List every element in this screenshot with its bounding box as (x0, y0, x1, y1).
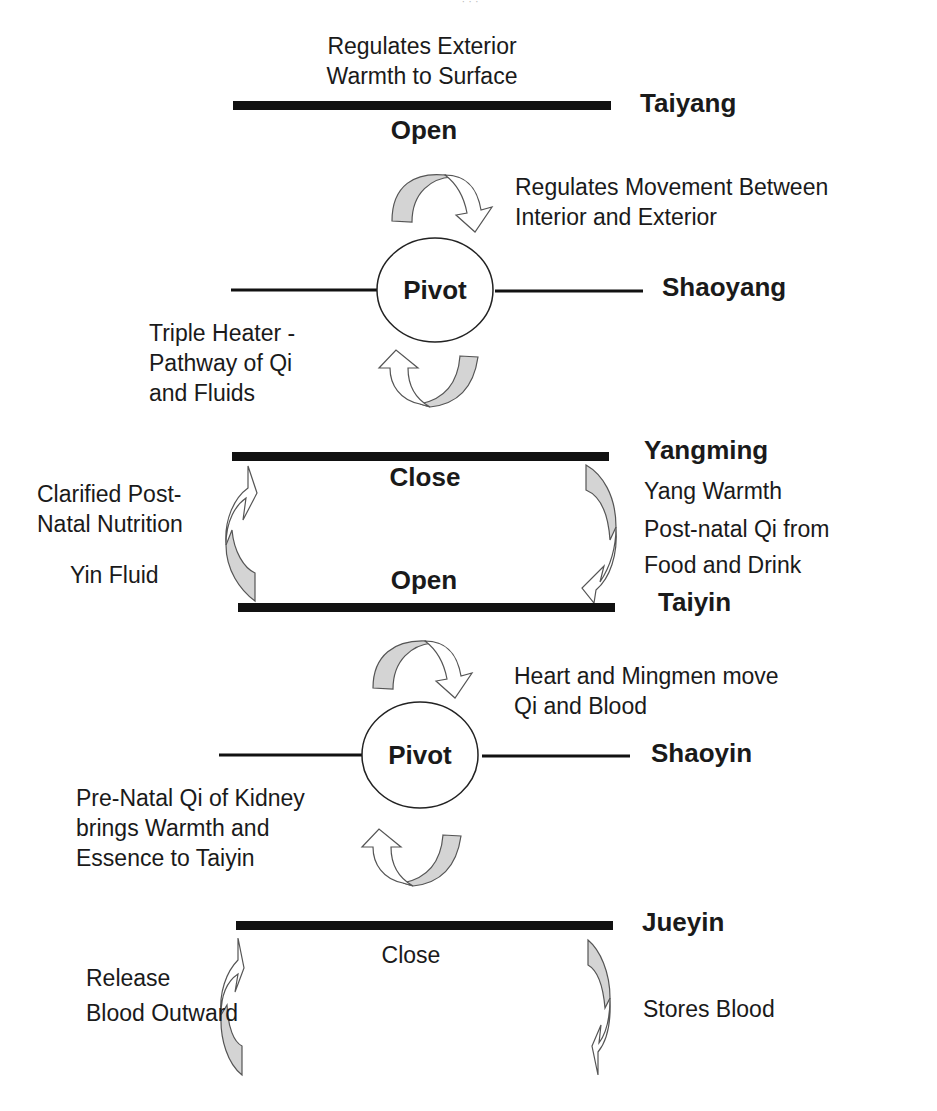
taiyin-note-left-extra: Yin Fluid (70, 562, 159, 588)
yangming-state: Close (390, 462, 461, 492)
shaoyin-note-right-line-1: Heart and Mingmen move (514, 663, 779, 689)
clipped-header: · · · (461, 0, 478, 7)
yangming-note-line-2: Post-natal Qi from (644, 516, 829, 542)
six-levels-diagram: · · · Regulates Exterior Warmth to Surfa… (0, 0, 937, 1111)
curved-arrow-icon (392, 175, 492, 232)
taiyin-label: Taiyin (658, 587, 731, 617)
shaoyin-note-left-line-3: Essence to Taiyin (76, 845, 255, 871)
jueyin-note-right: Stores Blood (643, 996, 775, 1022)
shaoyang-label: Shaoyang (662, 272, 786, 302)
taiyang-state: Open (391, 115, 457, 145)
shaoyang-note-right-line-2: Interior and Exterior (515, 204, 717, 230)
curved-arrow-icon (379, 350, 478, 407)
shaoyang-group: Pivot Shaoyang (231, 238, 786, 342)
taiyin-note-left-line-2: Natal Nutrition (37, 511, 183, 537)
jueyin-state: Close (382, 942, 441, 968)
shaoyang-note-left-line-3: and Fluids (149, 380, 255, 406)
yangming-note-line-1: Yang Warmth (644, 478, 782, 504)
curved-arrow-icon (226, 466, 257, 601)
curved-arrow-icon (362, 829, 461, 886)
curved-arrow-icon (373, 641, 472, 698)
yangming-label: Yangming (644, 435, 768, 465)
shaoyin-note-right-line-2: Qi and Blood (514, 693, 647, 719)
taiyang-group: Regulates Exterior Warmth to Surface Tai… (233, 33, 736, 145)
yangming-note-line-3: Food and Drink (644, 552, 802, 578)
taiyin-bar (238, 603, 615, 612)
yangming-bar (232, 452, 609, 461)
shaoyang-note-right-line-1: Regulates Movement Between (515, 174, 828, 200)
jueyin-label: Jueyin (642, 907, 724, 937)
shaoyang-state: Pivot (403, 275, 467, 305)
shaoyin-note-left-line-2: brings Warmth and (76, 815, 269, 841)
taiyang-bar (233, 101, 611, 110)
curved-arrow-icon (582, 465, 616, 603)
jueyin-note-left-line-2: Blood Outward (86, 1000, 238, 1026)
shaoyin-note-left-line-1: Pre-Natal Qi of Kidney (76, 785, 305, 811)
taiyin-note-left-line-1: Clarified Post- (37, 481, 181, 507)
jueyin-note-left-line-1: Release (86, 965, 170, 991)
taiyang-note-line-2: Warmth to Surface (327, 63, 518, 89)
shaoyin-label: Shaoyin (651, 738, 752, 768)
shaoyang-note-left-line-1: Triple Heater - (149, 320, 295, 346)
taiyang-note-line-1: Regulates Exterior (327, 33, 517, 59)
jueyin-bar (236, 921, 613, 930)
shaoyang-note-left-line-2: Pathway of Qi (149, 350, 292, 376)
taiyin-state: Open (391, 565, 457, 595)
taiyang-label: Taiyang (640, 88, 736, 118)
shaoyin-state: Pivot (388, 740, 452, 770)
curved-arrow-icon (588, 940, 610, 1075)
jueyin-group: Jueyin Close (236, 907, 724, 968)
